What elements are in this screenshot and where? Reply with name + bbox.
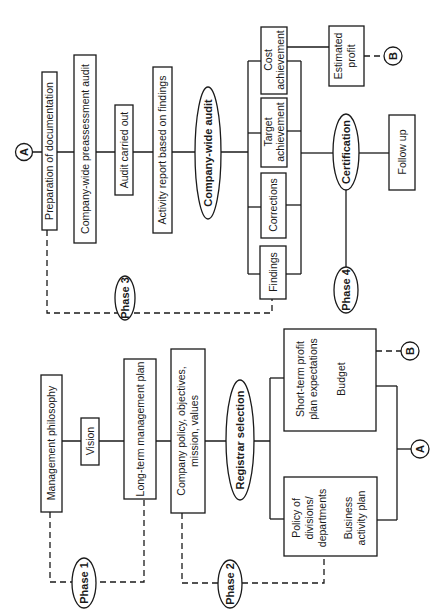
phase1-dashed-bracket <box>50 499 144 582</box>
company-policy-label-1: Company policy, objectives, <box>175 366 187 495</box>
follow-up-label: Follow up <box>396 129 408 174</box>
corrections-box: Corrections <box>261 173 286 238</box>
phase4-label: Phase 4 <box>340 268 352 310</box>
findings-box: Findings <box>260 246 286 299</box>
preparation-box: Preparation of documentation <box>42 72 57 230</box>
audit-carried-out-box: Audit carried out <box>115 105 133 195</box>
policy-divisions-label-2: divisions/ <box>303 496 315 539</box>
management-philosophy-label: Management philosophy <box>45 385 57 500</box>
connector-a-label: A <box>18 148 30 156</box>
business-plan-label-1: Business <box>342 497 354 540</box>
phase1-label: Phase 1 <box>78 562 90 604</box>
audit-process-diagram: A Preparation of documentation Company-w… <box>0 0 435 616</box>
cost-label-1: Cost <box>262 49 274 71</box>
target-label-1: Target <box>262 117 274 146</box>
connector-b-label: B <box>387 52 399 60</box>
phase2-label: Phase 2 <box>224 563 236 605</box>
registrar-selection-label: Registrar selection <box>234 390 246 489</box>
budget-label: Budget <box>335 362 347 395</box>
phase1-node: Phase 1 <box>72 558 96 608</box>
estimated-label-2: profit <box>345 44 357 67</box>
cost-achievement-box: Cost achievement <box>261 27 287 94</box>
vision-box: Vision <box>81 418 99 465</box>
company-policy-label-2: mission, values <box>188 395 200 467</box>
target-achievement-box: Target achievement <box>261 98 287 167</box>
preparation-label: Preparation of documentation <box>43 82 55 220</box>
cost-label-2: achievement <box>274 30 286 90</box>
company-wide-audit-label: Company-wide audit <box>202 99 214 207</box>
connector-a-bottom: A <box>411 440 429 458</box>
findings-label: Findings <box>267 252 279 292</box>
business-plan-label-2: activity plan <box>355 490 367 545</box>
long-term-plan-label: Long-term management plan <box>134 361 146 496</box>
connector-b-top: B <box>384 47 402 65</box>
company-policy-box: Company policy, objectives, mission, val… <box>171 349 205 513</box>
connector-b-label: B <box>404 347 416 355</box>
policy-divisions-label-1: Policy of <box>290 498 302 538</box>
management-philosophy-box: Management philosophy <box>41 375 62 512</box>
long-term-plan-box: Long-term management plan <box>124 359 156 499</box>
phase4-node: Phase 4 <box>334 267 358 313</box>
company-wide-audit-node: Company-wide audit <box>195 87 221 219</box>
vision-label: Vision <box>84 427 96 456</box>
target-label-2: achievement <box>274 102 286 162</box>
follow-up-box: Follow up <box>389 115 415 190</box>
connector-a-label: A <box>414 445 426 453</box>
activity-report-label: Activity report based on findings <box>156 76 168 225</box>
audit-carried-out-label: Audit carried out <box>118 112 130 189</box>
connector-a-top: A <box>16 144 33 161</box>
connector-b-bottom: B <box>401 342 419 360</box>
preassessment-box: Company-wide preassessment audit <box>74 55 96 243</box>
preassessment-label: Company-wide preassessment audit <box>79 64 91 234</box>
short-term-label-1: Short-term profit <box>294 341 306 417</box>
phase3-node: Phase 3 <box>115 276 135 320</box>
activity-report-box: Activity report based on findings <box>153 67 172 233</box>
phase2-node: Phase 2 <box>218 560 242 608</box>
estimated-profit-box: Estimated profit <box>329 26 364 86</box>
certification-node: Certification <box>333 114 359 190</box>
registrar-selection-node: Registrar selection <box>226 380 254 500</box>
phase3-label: Phase 3 <box>119 277 131 319</box>
certification-label: Certification <box>340 120 352 184</box>
policy-divisions-label-3: departments <box>316 489 328 547</box>
corrections-label: Corrections <box>267 178 279 232</box>
policy-divisions-box: Policy of divisions/ departments Busines… <box>284 477 377 556</box>
short-term-label-2: plan expectations <box>307 338 319 420</box>
estimated-label-1: Estimated <box>332 32 344 79</box>
short-term-plan-box: Short-term profit plan expectations Budg… <box>284 329 376 431</box>
